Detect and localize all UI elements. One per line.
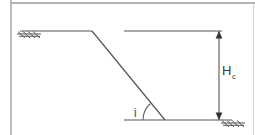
slope-diagram-figure: H c i [0, 0, 255, 135]
slope-face-line [92, 31, 165, 120]
dimension-arrowhead-top [216, 31, 223, 39]
ground-hatch-right-icon [221, 121, 245, 128]
slope-angle-label: i [134, 106, 137, 120]
height-label-subscript: c [232, 72, 236, 81]
slope-angle-arc [143, 104, 151, 121]
dimension-arrowhead-bottom [216, 113, 223, 121]
slope-diagram-canvas: H c i [0, 0, 255, 135]
height-label-symbol: H [222, 63, 231, 78]
ground-hatch-left-icon [17, 32, 41, 39]
